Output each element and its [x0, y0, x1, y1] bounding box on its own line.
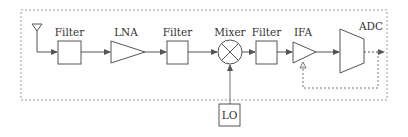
filter-label-2: Filter	[163, 26, 193, 38]
antenna-icon	[32, 24, 57, 52]
mixer-icon: Mixer	[214, 26, 246, 64]
lna-label: LNA	[114, 26, 138, 38]
filter-block-2: Filter	[163, 26, 193, 64]
lo-label: LO	[222, 109, 238, 121]
filter-block-3: Filter	[252, 26, 282, 64]
mixer-label: Mixer	[214, 26, 246, 38]
filter-block-1: Filter	[55, 26, 85, 64]
filter-label-1: Filter	[55, 26, 85, 38]
feedback-path	[300, 52, 378, 88]
lo-block: LO	[219, 65, 240, 126]
adc-label: ADC	[358, 20, 383, 32]
lna-amplifier: LNA	[111, 26, 145, 63]
receiver-diagram: Filter LNA Filter Mixer Filter IFA ADC	[0, 0, 408, 137]
ifa-amplifier: IFA	[293, 26, 316, 63]
ifa-label: IFA	[294, 26, 313, 38]
filter-label-3: Filter	[252, 26, 282, 38]
adc-block: ADC	[340, 20, 383, 73]
